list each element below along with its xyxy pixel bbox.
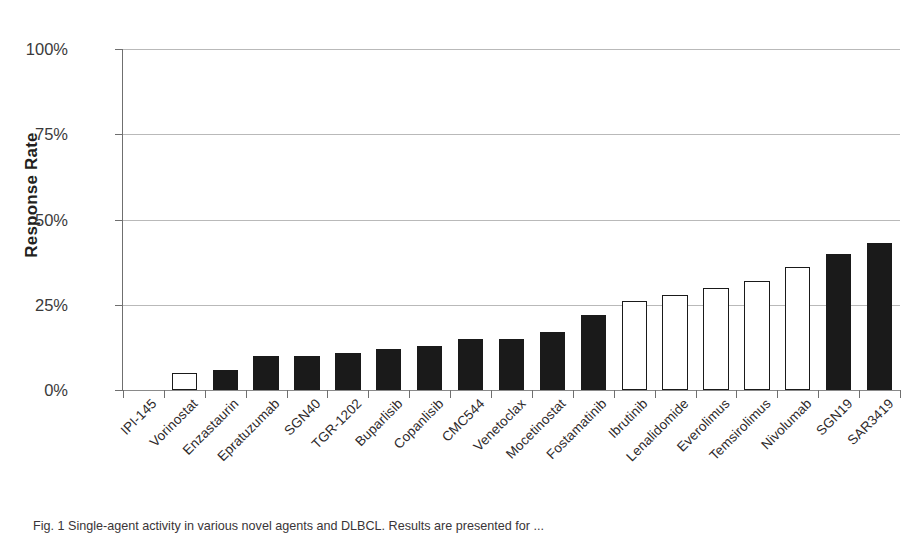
figure-container: Response Rate 0%25%50%75%100% IPI-145Vor… (0, 0, 908, 533)
x-axis-labels: IPI-145VorinostatEnzastaurinEpratuzumabS… (0, 396, 908, 506)
figure-caption: Fig. 1 Single-agent activity in various … (33, 519, 881, 533)
y-tick-label-100: 100% (4, 40, 68, 59)
y-tick-label-75: 75% (4, 125, 68, 144)
y-tick-label-50: 50% (4, 210, 68, 229)
plot-area (123, 49, 900, 390)
bar-series (123, 49, 900, 390)
y-tick-label-25: 25% (4, 295, 68, 314)
